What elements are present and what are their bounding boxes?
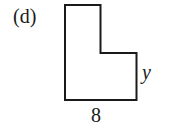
right-side-dimension-label: y xyxy=(142,62,151,82)
l-shape-outline xyxy=(65,5,137,100)
bottom-side-dimension-label: 8 xyxy=(91,105,101,125)
